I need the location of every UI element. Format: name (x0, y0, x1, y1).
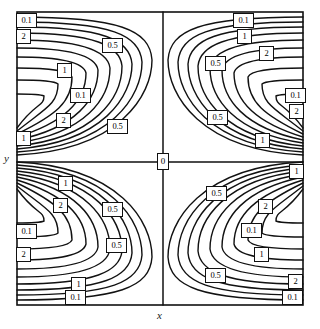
contour-label: 2 (258, 199, 273, 214)
contour-label: 0.1 (233, 13, 254, 28)
contour-label: 1 (254, 247, 269, 262)
contour-label: 2 (53, 198, 68, 213)
contour-label: 2 (56, 113, 71, 128)
contour-label: 0.5 (102, 202, 123, 217)
contour-label: 2 (16, 247, 31, 262)
contours-upper-left (17, 17, 152, 155)
contour-label: 0.5 (205, 268, 226, 283)
x-axis-label: x (157, 310, 162, 321)
contour-label: 0.1 (282, 290, 303, 305)
contour-label: 0.5 (102, 38, 123, 53)
contour-label: 0.1 (16, 13, 37, 28)
contour-label: 1 (255, 133, 270, 148)
origin-label: 0 (157, 153, 169, 170)
contour-label: 1 (57, 63, 72, 78)
contour-label: 1 (16, 131, 31, 146)
contour-label: 2 (288, 274, 303, 289)
contour-label: 0.5 (107, 119, 128, 134)
contour-label: 0.1 (241, 223, 262, 238)
contour-label: 2 (259, 46, 274, 61)
contour-label: 0.5 (206, 186, 227, 201)
contour-label: 1 (289, 164, 304, 179)
contour-label: 0.5 (106, 238, 127, 253)
contour-label: 2 (289, 104, 304, 119)
contour-label: 0.1 (16, 224, 37, 239)
contour-label: 0.5 (207, 110, 228, 125)
contours-upper-right (168, 17, 303, 155)
contours-lower-right (168, 162, 303, 300)
contour-label: 1 (58, 176, 73, 191)
contour-label: 0.1 (285, 88, 306, 103)
contour-label: 0.1 (70, 88, 91, 103)
contour-label: 2 (16, 29, 31, 44)
contour-label: 0.1 (65, 290, 86, 305)
contour-label: 1 (237, 29, 252, 44)
contour-label: 0.5 (205, 56, 226, 71)
y-axis-label: y (4, 153, 9, 164)
